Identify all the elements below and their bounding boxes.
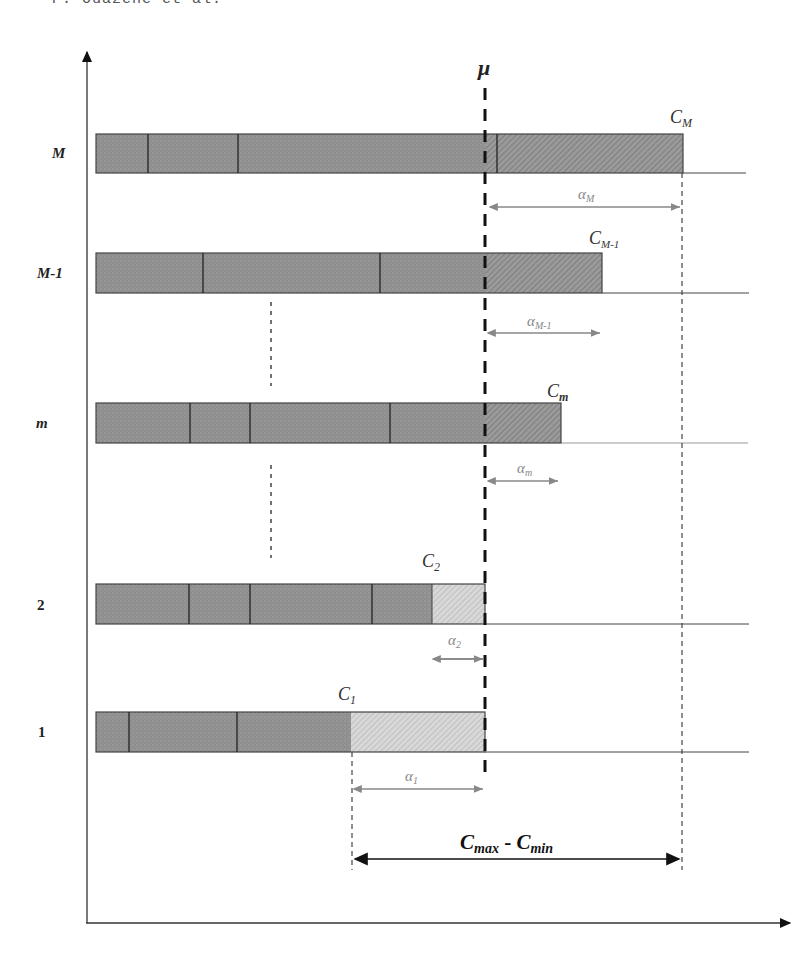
row-label-M: M: [51, 145, 66, 161]
range-label: Cmax - Cmin: [460, 830, 553, 856]
axes: [86, 52, 790, 923]
row-labels: M M-1 m 2 1: [36, 145, 66, 740]
row-m: [96, 403, 561, 443]
alpha-M-label: αM: [578, 186, 595, 204]
row-1: [96, 712, 485, 752]
c-M-label: CM: [670, 107, 693, 130]
c-M-1-label: CM-1: [589, 228, 619, 250]
mu-label: μ: [477, 55, 490, 80]
alpha-1-label: α1: [405, 768, 418, 786]
row-M-1: [96, 253, 602, 293]
row-label-1: 1: [38, 724, 46, 740]
alpha-m-label: αm: [517, 460, 532, 478]
row-M: [96, 134, 683, 173]
alpha-2-label: α2: [448, 632, 461, 650]
c-1-label: C1: [338, 684, 356, 707]
c-2-label: C2: [422, 551, 440, 574]
row-label-m: m: [36, 415, 48, 431]
c-m-label: Cm: [547, 381, 568, 404]
row-label-M-1: M-1: [36, 265, 63, 281]
alpha-M-1-label: αM-1: [527, 313, 552, 331]
row-label-2: 2: [37, 597, 45, 613]
alpha-arrows: [354, 207, 680, 789]
row-2: [96, 584, 485, 624]
schedule-diagram: M M-1 m 2 1 μ CM CM-1 Cm C2 C1 αM αM-1 α…: [0, 0, 811, 960]
